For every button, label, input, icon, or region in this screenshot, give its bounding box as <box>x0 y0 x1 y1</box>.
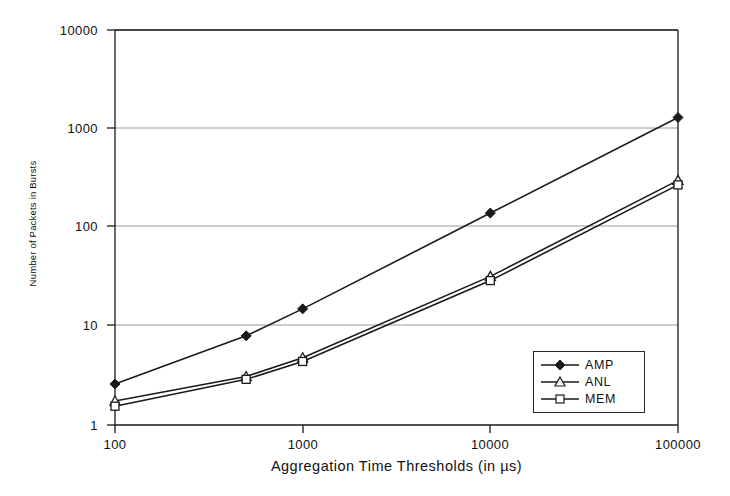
y-tick-label-1: 1 <box>18 418 98 433</box>
open-triangle-icon <box>539 374 581 390</box>
filled-diamond-icon <box>539 357 581 373</box>
series-amp <box>110 112 683 389</box>
line-amp <box>115 118 678 385</box>
legend-item-mem: MEM <box>539 390 639 407</box>
chart-legend: AMP ANL MEM <box>533 351 645 413</box>
chart-plot-area <box>0 0 730 496</box>
x-tick-label-100000: 100000 <box>655 437 701 452</box>
legend-label-mem: MEM <box>581 392 616 406</box>
x-axis-title: Aggregation Time Thresholds (in µs) <box>115 458 678 474</box>
marker-open-square-icon <box>242 375 250 383</box>
legend-item-amp: AMP <box>539 356 639 373</box>
y-axis-ticks <box>107 30 115 425</box>
open-square-icon <box>539 391 581 407</box>
gridlines <box>115 30 678 325</box>
x-tick-label-1000: 1000 <box>288 437 319 452</box>
marker-open-square-icon <box>299 357 307 365</box>
chart-container: 10000 1000 100 10 1 100 1000 10000 10000… <box>0 0 730 496</box>
y-axis-title: Number of Packets in Bursts <box>27 134 38 314</box>
marker-filled-diamond-icon <box>485 208 495 218</box>
x-axis-ticks <box>115 425 678 433</box>
x-tick-label-100: 100 <box>104 437 127 452</box>
marker-open-square-icon <box>486 277 494 285</box>
marker-filled-diamond-icon <box>298 304 308 314</box>
marker-open-square-icon <box>111 402 119 410</box>
marker-filled-diamond-icon <box>241 331 251 341</box>
y-tick-label-10000: 10000 <box>18 23 98 38</box>
legend-label-anl: ANL <box>581 375 611 389</box>
y-tick-label-10: 10 <box>18 318 98 333</box>
x-tick-label-10000: 10000 <box>471 437 509 452</box>
legend-label-amp: AMP <box>581 358 614 372</box>
marker-open-square-icon <box>674 181 682 189</box>
marker-filled-diamond-icon <box>110 379 120 389</box>
marker-filled-diamond-icon <box>673 112 683 122</box>
legend-item-anl: ANL <box>539 373 639 390</box>
